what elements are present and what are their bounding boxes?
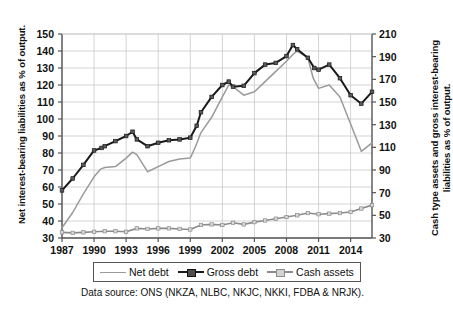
tick-label: 2008 [269,244,303,256]
tick-label: 1996 [141,244,175,256]
data-source-caption: Data source: ONS (NKZA, NLBC, NKJC, NKKI… [0,287,445,298]
tick-label: 130 [28,62,54,74]
legend-item-net-debt: Net debt [100,266,169,278]
tick-label: 40 [28,215,54,227]
gridlines [62,34,372,238]
tick-label: 2002 [205,244,239,256]
legend-item-cash-assets: Cash assets [267,266,354,278]
tick-label: 1987 [45,244,79,256]
tick-label: 80 [28,147,54,159]
legend-label-gross-debt: Gross debt [207,266,258,278]
tick-label: 70 [379,187,405,199]
tick-label: 100 [28,113,54,125]
tick-label: 60 [28,181,54,193]
tick-label: 90 [28,130,54,142]
tick-label: 1993 [109,244,143,256]
tick-label: 1990 [77,244,111,256]
tick-label: 150 [28,28,54,40]
tick-label: 2011 [302,244,336,256]
legend-label-cash-assets: Cash assets [296,266,354,278]
tick-label: 90 [379,164,405,176]
series-net-debt [62,51,372,228]
tick-label: 50 [379,209,405,221]
legend-label-net-debt: Net debt [129,266,169,278]
tick-label: 70 [28,164,54,176]
legend-swatch-net-debt [100,268,126,277]
tick-label: 110 [379,141,405,153]
legend-item-gross-debt: Gross debt [178,266,258,278]
tick-label: 140 [28,45,54,57]
tick-label: 210 [379,28,405,40]
tick-label: 2014 [334,244,368,256]
legend-swatch-cash-assets [267,268,293,277]
tick-label: 50 [28,198,54,210]
tick-label: 170 [379,73,405,85]
tick-label: 30 [28,232,54,244]
tick-label: 120 [28,79,54,91]
legend-swatch-gross-debt [178,268,204,277]
tick-label: 110 [28,96,54,108]
series-cash-assets [60,203,373,234]
tick-label: 30 [379,232,405,244]
tick-label: 130 [379,119,405,131]
tick-label: 190 [379,51,405,63]
tick-label: 2005 [237,244,271,256]
tick-label: 150 [379,96,405,108]
chart-legend: Net debt Gross debt Cash assets [93,262,361,282]
tick-label: 1999 [173,244,207,256]
